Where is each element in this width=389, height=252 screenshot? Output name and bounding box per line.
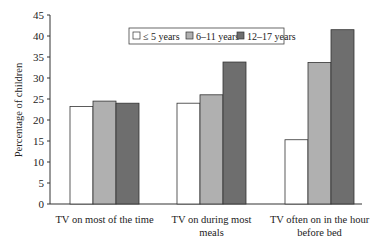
x-category-label: TV often on in the hour [270, 214, 370, 225]
bar-chart: 051015202530354045Percentage of children… [0, 0, 389, 252]
legend-swatch-3 [237, 32, 244, 39]
bar-3-3 [331, 30, 354, 204]
y-tick-label: 45 [33, 9, 45, 21]
y-tick-label: 0 [39, 198, 45, 210]
y-tick-label: 5 [39, 177, 45, 189]
y-tick-label: 30 [33, 72, 45, 84]
x-category-label: meals [199, 227, 224, 238]
legend-label-1: ≤ 5 years [143, 31, 180, 42]
bar-1-2 [177, 103, 200, 204]
x-category-label: TV on during most [171, 214, 251, 225]
bar-2-2 [200, 95, 223, 204]
bar-1-3 [285, 140, 308, 204]
legend-swatch-2 [186, 32, 193, 39]
bar-3-1 [116, 103, 139, 204]
y-tick-label: 35 [33, 51, 45, 63]
y-tick-label: 40 [33, 30, 45, 42]
legend-label-2: 6–11 years [196, 31, 239, 42]
chart-canvas: 051015202530354045Percentage of children… [0, 0, 389, 252]
bar-3-2 [223, 62, 246, 204]
y-tick-label: 10 [33, 156, 45, 168]
x-category-label: before bed [297, 227, 342, 238]
y-tick-label: 15 [33, 135, 45, 147]
y-tick-label: 20 [33, 114, 45, 126]
y-tick-label: 25 [33, 93, 45, 105]
legend-swatch-1 [133, 32, 140, 39]
legend-label-3: 12–17 years [247, 31, 296, 42]
bar-2-1 [93, 101, 116, 204]
bar-1-1 [70, 107, 93, 204]
x-category-label: TV on most of the time [55, 214, 153, 225]
bar-2-3 [308, 62, 331, 204]
y-axis-label: Percentage of children [13, 62, 24, 157]
